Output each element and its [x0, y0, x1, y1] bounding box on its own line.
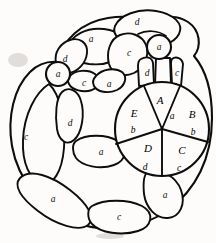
sector-edge-D: d	[143, 162, 148, 172]
figure-root: A a B b C c D d E b a a d a d c c a d c …	[0, 0, 216, 243]
region-label-upper-d: d	[63, 54, 68, 64]
sector-edge-A: a	[170, 111, 175, 121]
region-label-strip-d: d	[145, 68, 150, 78]
scan-smudge	[8, 53, 28, 67]
node-left-label: a	[56, 69, 61, 79]
region-label-inner-a: a	[99, 147, 104, 157]
region-label-top-a: a	[89, 34, 94, 44]
sector-label-E: E	[130, 107, 138, 119]
cell-inner-d	[56, 89, 83, 142]
cell-strip-mid	[155, 58, 171, 85]
sector-label-D: D	[143, 142, 152, 154]
sector-label-A: A	[156, 94, 164, 106]
diagram-canvas: A a B b C c D d E b a a d a d c c a d c …	[0, 0, 216, 243]
region-label-node-a: a	[107, 79, 112, 89]
sector-edge-B: b	[191, 127, 196, 137]
sector-edge-E: b	[131, 125, 136, 135]
region-label-inner-d: d	[68, 118, 73, 128]
region-label-top-d: d	[135, 17, 140, 27]
sector-label-B: B	[189, 108, 196, 120]
sector-label-C: C	[178, 144, 186, 156]
node-right-label: a	[157, 42, 162, 52]
region-label-bottom-r-a: a	[163, 190, 168, 200]
region-label-bottom-a: a	[51, 194, 56, 204]
